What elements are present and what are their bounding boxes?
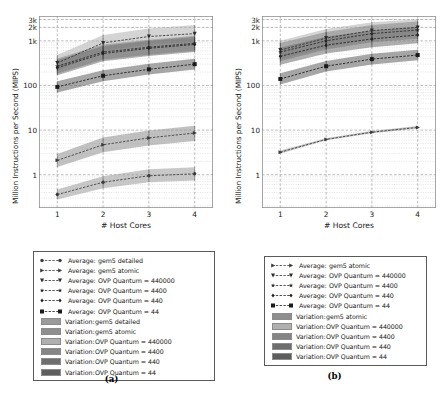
legend-marker-square-icon <box>38 307 64 316</box>
legend-item-name: OVP Quantum = 4400 <box>98 287 167 294</box>
legend-item-label: Variation:gem5 atomic <box>65 328 136 335</box>
legend-item-name: gem5 atomic <box>98 267 139 274</box>
legend-item-prefix: Variation: <box>296 353 326 360</box>
legend-item: Variation:OVP Quantum = 440 <box>38 357 210 367</box>
legend-item-name: OVP Quantum = 4400 <box>326 333 395 340</box>
legend-item-prefix: Variation: <box>65 328 95 335</box>
legend-item-label: Variation:gem5 detailed <box>65 318 140 325</box>
y-tick-label: 1k <box>251 36 260 45</box>
y-axis-label: Million Instructions per Second (MIPS) <box>234 68 243 204</box>
legend-item-name: OVP Quantum = 440000 <box>98 277 175 284</box>
legend-marker-diamond-icon <box>269 291 295 300</box>
legend-color-swatch <box>41 338 61 345</box>
legend-color-swatch <box>41 358 61 365</box>
panel-a: 1101001k2k3k1234# Host CoresMillion Inst… <box>0 0 223 398</box>
legend-marker-triangle-down-icon <box>269 271 295 280</box>
legend-b: Average:gem5 atomicAverage:OVP Quantum =… <box>264 256 427 366</box>
legend-item-prefix: Average: <box>299 292 329 299</box>
legend-item-label: Variation:OVP Quantum = 44 <box>296 353 387 360</box>
legend-item-prefix: Average: <box>68 297 98 304</box>
legend-color-swatch <box>272 333 292 340</box>
legend-marker-star-icon <box>269 281 295 290</box>
legend-color-swatch <box>41 318 61 325</box>
legend-marker-star-icon <box>38 286 64 295</box>
y-tick-label: 1 <box>32 170 37 179</box>
legend-item-name: gem5 detailed <box>98 257 143 264</box>
legend-item-label: Average:OVP Quantum = 44 <box>68 308 159 315</box>
legend-color-swatch <box>41 348 61 355</box>
y-tick-label: 1 <box>255 170 260 179</box>
legend-item: Average:gem5 detailed <box>38 255 210 265</box>
legend-item-label: Average:OVP Quantum = 440 <box>299 292 394 299</box>
legend-a: Average:gem5 detailedAverage:gem5 atomic… <box>33 251 215 381</box>
x-tick-label: 4 <box>192 210 197 219</box>
y-tick-label: 100 <box>246 81 260 90</box>
legend-item-name: OVP Quantum = 4400 <box>95 348 164 355</box>
legend-color-swatch <box>41 328 61 335</box>
legend-item-name: OVP Quantum = 44 <box>329 302 390 309</box>
legend-item-label: Variation:OVP Quantum = 4400 <box>296 333 395 340</box>
x-tick-label: 3 <box>370 210 375 219</box>
legend-item-name: OVP Quantum = 440 <box>329 292 394 299</box>
x-axis-label: # Host Cores <box>39 221 213 230</box>
legend-item-label: Average:gem5 atomic <box>299 262 370 269</box>
legend-marker-diamond-icon <box>38 296 64 305</box>
legend-item-name: OVP Quantum = 440 <box>326 343 391 350</box>
legend-item-prefix: Average: <box>299 302 329 309</box>
legend-item-prefix: Variation: <box>296 333 326 340</box>
legend-item: Average:OVP Quantum = 440 <box>269 291 422 301</box>
legend-item-prefix: Variation: <box>65 318 95 325</box>
legend-item: Average:OVP Quantum = 4400 <box>38 286 210 296</box>
legend-item: Average:OVP Quantum = 4400 <box>269 280 422 290</box>
legend-item: Average:OVP Quantum = 44 <box>38 306 210 316</box>
y-tick-label: 100 <box>23 81 37 90</box>
legend-color-swatch <box>272 353 292 360</box>
legend-item-prefix: Average: <box>68 308 98 315</box>
y-tick-label: 2k <box>251 23 260 32</box>
legend-item: Average:gem5 atomic <box>269 260 422 270</box>
legend-item: Average:gem5 atomic <box>38 265 210 275</box>
x-tick-label: 4 <box>415 210 420 219</box>
legend-item: Variation:OVP Quantum = 440 <box>269 342 422 352</box>
x-tick-label: 2 <box>324 210 329 219</box>
legend-item-label: Average:OVP Quantum = 440000 <box>299 272 406 279</box>
legend-item-label: Variation:OVP Quantum = 440 <box>296 343 391 350</box>
legend-item-prefix: Variation: <box>296 323 326 330</box>
legend-item-label: Average:OVP Quantum = 4400 <box>299 282 398 289</box>
legend-item-prefix: Average: <box>299 282 329 289</box>
legend-item-name: OVP Quantum = 4400 <box>329 282 398 289</box>
legend-item-prefix: Variation: <box>65 348 95 355</box>
legend-color-swatch <box>272 343 292 350</box>
legend-item-label: Average:gem5 atomic <box>68 267 139 274</box>
legend-item-prefix: Variation: <box>65 358 95 365</box>
legend-item-prefix: Average: <box>68 257 98 264</box>
x-tick-label: 1 <box>278 210 283 219</box>
legend-item-name: OVP Quantum = 440000 <box>329 272 406 279</box>
legend-item-name: OVP Quantum = 440 <box>95 358 160 365</box>
legend-item-label: Average:OVP Quantum = 440 <box>68 297 163 304</box>
legend-marker-triangle-down-icon <box>38 276 64 285</box>
y-tick-label: 3k <box>28 15 37 24</box>
legend-item: Average:OVP Quantum = 44 <box>269 301 422 311</box>
legend-item: Average:OVP Quantum = 440000 <box>38 275 210 285</box>
legend-item-prefix: Average: <box>299 272 329 279</box>
legend-item-label: Average:OVP Quantum = 440000 <box>68 277 175 284</box>
legend-item-name: OVP Quantum = 440 <box>98 297 163 304</box>
legend-marker-square-icon <box>269 301 295 310</box>
legend-item-prefix: Average: <box>68 267 98 274</box>
y-tick-label: 1k <box>28 36 37 45</box>
legend-item-name: gem5 atomic <box>326 313 367 320</box>
legend-item-prefix: Variation: <box>65 338 95 345</box>
legend-color-swatch <box>272 323 292 330</box>
legend-item-name: OVP Quantum = 440000 <box>95 338 172 345</box>
y-tick-label: 3k <box>251 15 260 24</box>
x-tick-label: 3 <box>147 210 152 219</box>
legend-item-name: gem5 atomic <box>329 262 370 269</box>
legend-item: Variation:OVP Quantum = 440000 <box>269 321 422 331</box>
legend-item: Variation:OVP Quantum = 440000 <box>38 337 210 347</box>
legend-item-label: Average:OVP Quantum = 4400 <box>68 287 167 294</box>
figure-root: 1101001k2k3k1234# Host CoresMillion Inst… <box>0 0 446 398</box>
legend-item-prefix: Average: <box>68 277 98 284</box>
legend-item-prefix: Variation: <box>296 343 326 350</box>
y-tick-label: 10 <box>28 126 37 135</box>
